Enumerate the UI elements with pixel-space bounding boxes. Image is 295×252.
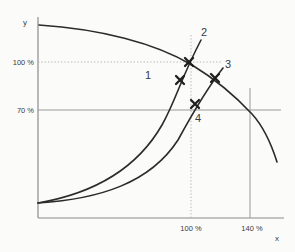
rising-curve-steep — [38, 40, 201, 203]
x-tick-140pct: 140 % — [241, 224, 263, 233]
point-label-3: 3 — [225, 58, 231, 70]
characteristic-curves-diagram: y x 100 % 70 % 100 % 140 % 1 2 3 4 — [0, 0, 295, 252]
falling-characteristic-curve — [39, 25, 277, 162]
rising-curve-flat — [38, 68, 223, 203]
point-label-1: 1 — [145, 69, 151, 81]
point-label-2: 2 — [201, 26, 207, 38]
y-tick-70pct: 70 % — [17, 106, 34, 115]
y-axis-label: y — [23, 18, 27, 27]
point-label-4: 4 — [195, 112, 201, 124]
x-axis-label: x — [275, 234, 279, 243]
x-tick-100pct: 100 % — [180, 224, 202, 233]
diagram-svg: y x 100 % 70 % 100 % 140 % 1 2 3 4 — [0, 0, 295, 252]
y-tick-100pct: 100 % — [13, 58, 35, 67]
